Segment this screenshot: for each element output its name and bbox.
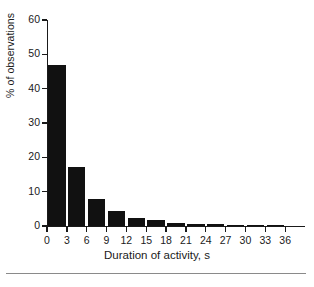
x-tick-mark bbox=[285, 227, 286, 232]
bar bbox=[147, 220, 164, 226]
bar bbox=[267, 225, 284, 226]
bar bbox=[88, 199, 105, 226]
y-tick-label: 30 bbox=[16, 116, 40, 128]
x-tick-mark bbox=[245, 227, 246, 232]
x-tick-mark bbox=[165, 227, 166, 232]
x-tick-mark bbox=[66, 227, 67, 232]
y-tick-label: 10 bbox=[16, 185, 40, 197]
bar-chart-figure: % of observations 0102030405060 03691215… bbox=[0, 0, 314, 287]
y-tick-label: 40 bbox=[16, 82, 40, 94]
bar bbox=[167, 223, 184, 226]
footer-divider bbox=[6, 273, 306, 274]
plot-area: 0102030405060 0369121518212427303336 bbox=[47, 20, 305, 226]
x-tick-mark bbox=[46, 227, 47, 232]
x-tick-label: 36 bbox=[272, 234, 298, 246]
x-tick-mark bbox=[205, 227, 206, 232]
bar-series bbox=[47, 20, 305, 226]
x-tick-mark bbox=[265, 227, 266, 232]
x-tick-mark bbox=[106, 227, 107, 232]
x-tick-mark bbox=[225, 227, 226, 232]
bar bbox=[108, 211, 125, 226]
y-tick-label: 0 bbox=[16, 219, 40, 231]
x-tick-mark bbox=[185, 227, 186, 232]
bar bbox=[247, 225, 264, 226]
x-tick-mark bbox=[146, 227, 147, 232]
bar bbox=[48, 65, 65, 226]
y-axis-title: % of observations bbox=[4, 0, 16, 98]
y-tick-label: 50 bbox=[16, 47, 40, 59]
bar bbox=[207, 224, 224, 226]
y-tick-label: 20 bbox=[16, 150, 40, 162]
x-tick-mark bbox=[86, 227, 87, 232]
y-tick-label: 60 bbox=[16, 13, 40, 25]
x-tick-mark bbox=[126, 227, 127, 232]
x-axis-title: Duration of activity, s bbox=[0, 249, 314, 261]
bar bbox=[128, 218, 145, 226]
bar bbox=[68, 167, 85, 226]
bar bbox=[187, 224, 204, 226]
bar bbox=[227, 225, 244, 226]
